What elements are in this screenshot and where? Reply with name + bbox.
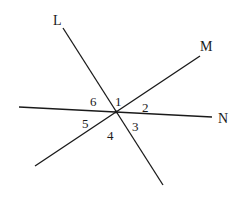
line-label-n: N <box>218 111 228 126</box>
angle-label-1: 1 <box>115 94 122 109</box>
angle-label-5: 5 <box>82 116 89 131</box>
diagram-canvas: L M N 1 2 3 4 5 6 <box>0 0 241 202</box>
angle-label-4: 4 <box>107 128 114 143</box>
angle-label-2: 2 <box>142 100 149 115</box>
line-m <box>35 56 200 166</box>
line-label-m: M <box>200 39 213 54</box>
intersection-point <box>115 111 118 114</box>
angle-label-3: 3 <box>132 119 139 134</box>
angle-label-6: 6 <box>90 94 97 109</box>
line-label-l: L <box>53 13 62 28</box>
intersecting-lines-diagram: L M N 1 2 3 4 5 6 <box>0 0 241 202</box>
